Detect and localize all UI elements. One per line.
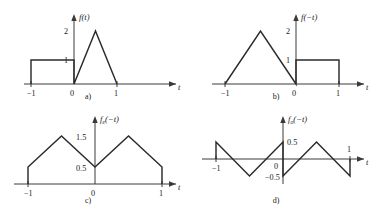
caption-b: b) bbox=[256, 92, 296, 101]
x-tick-label-1: 1 bbox=[159, 189, 163, 198]
x-axis-label: t bbox=[366, 83, 369, 92]
x-axis-arrow-icon bbox=[169, 81, 176, 86]
y-tick-label-neg0p5: −0.5 bbox=[265, 173, 280, 182]
y-tick-label-0p5: 0.5 bbox=[76, 164, 86, 173]
y-tick-label-1: 1 bbox=[64, 56, 68, 65]
x-axis-label: t bbox=[178, 183, 181, 192]
x-tick-label-neg1: −1 bbox=[221, 89, 230, 98]
x-tick-label-1: 1 bbox=[347, 145, 351, 154]
y-tick-label-0p5: 0.5 bbox=[287, 138, 297, 147]
figure-root: t f(t) 2 1 −1 0 1 t f(−t) 2 1 −1 0 1 bbox=[0, 0, 376, 216]
x-tick-label-neg1: −1 bbox=[27, 89, 36, 98]
x-axis-label: t bbox=[178, 83, 181, 92]
caption-c: c) bbox=[68, 196, 108, 205]
function-label: fe(−t) bbox=[100, 114, 119, 125]
caption-a: a) bbox=[68, 92, 108, 101]
signal-curve bbox=[225, 31, 339, 84]
y-axis-arrow-icon bbox=[293, 14, 298, 21]
x-axis-label: t bbox=[366, 158, 369, 167]
x-tick-label-neg1: −1 bbox=[24, 189, 33, 198]
x-axis-arrow-icon bbox=[169, 181, 176, 186]
y-axis-arrow-icon bbox=[71, 14, 76, 21]
x-tick-label-0: 0 bbox=[274, 162, 278, 171]
y-tick-label-1p5: 1.5 bbox=[76, 133, 86, 142]
y-axis-arrow-icon bbox=[92, 116, 97, 123]
function-label: f(t) bbox=[79, 12, 90, 22]
x-axis-arrow-icon bbox=[357, 81, 364, 86]
function-label: f(−t) bbox=[301, 12, 317, 22]
x-axis-arrow-icon bbox=[357, 156, 364, 161]
x-tick-label-1: 1 bbox=[114, 89, 118, 98]
y-tick-label-2: 2 bbox=[286, 27, 290, 36]
y-tick-label-2: 2 bbox=[64, 27, 68, 36]
y-axis-arrow-icon bbox=[280, 116, 285, 123]
x-tick-label-1: 1 bbox=[336, 89, 340, 98]
caption-d: d) bbox=[256, 196, 296, 205]
y-tick-label-1: 1 bbox=[286, 56, 290, 65]
function-label: fo(−t) bbox=[288, 114, 307, 125]
x-tick-label-neg1: −1 bbox=[212, 164, 221, 173]
